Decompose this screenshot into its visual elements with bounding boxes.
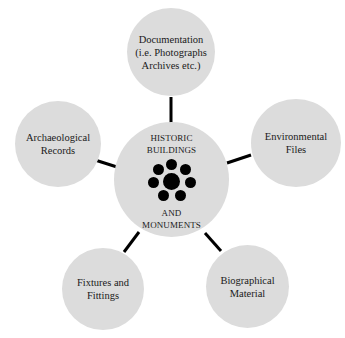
node-environmental: Environmental Files [251, 99, 341, 187]
node-fixtures-label: Fixtures and Fittings [77, 276, 129, 302]
diagram-canvas: Documentation (i.e. Photographs Archives… [0, 0, 345, 338]
node-biographical-label: Biographical Material [220, 274, 274, 300]
node-archaeological: Archaeological Records [15, 101, 101, 187]
node-archaeological-label: Archaeological Records [26, 131, 90, 157]
hub-title: HISTORIC BUILDINGS [147, 132, 196, 156]
node-fixtures: Fixtures and Fittings [62, 248, 144, 330]
connector-left [95, 160, 117, 167]
dot-cluster-icon [148, 159, 196, 203]
hub-subtitle: AND MONUMENTS [142, 207, 201, 231]
node-documentation-label: Documentation (i.e. Photographs Archives… [135, 33, 206, 72]
hub-historic-buildings: HISTORIC BUILDINGS AND MONUMENTS [114, 122, 229, 237]
connector-bottom-right [205, 233, 221, 251]
node-documentation: Documentation (i.e. Photographs Archives… [127, 8, 215, 96]
node-environmental-label: Environmental Files [265, 130, 327, 156]
connector-bottom-left [124, 232, 139, 252]
connector-right [227, 155, 251, 163]
node-biographical: Biographical Material [206, 245, 289, 328]
